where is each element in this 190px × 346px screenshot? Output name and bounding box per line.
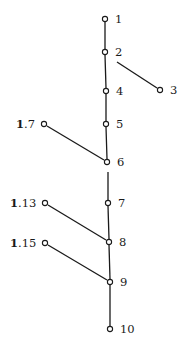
node-8 xyxy=(106,239,111,244)
edge-7-8 xyxy=(108,206,109,239)
node-1.7 xyxy=(41,121,46,126)
edge-8-9 xyxy=(109,245,110,279)
node-2 xyxy=(102,49,107,54)
label-10: 10 xyxy=(120,322,135,336)
node-7 xyxy=(105,200,110,205)
edge-5-6 xyxy=(106,127,107,159)
label-1: 1 xyxy=(115,12,122,26)
label-1.7-rest: .7 xyxy=(24,117,35,131)
node-3 xyxy=(157,87,162,92)
label-9: 9 xyxy=(120,275,127,289)
hasse-diagram: 1 2 3 4 5 6 7 8 9 10 1.7 1.13 1.15 xyxy=(0,0,190,346)
label-1.13-rest: .13 xyxy=(18,196,36,210)
label-1.15: 1.15 xyxy=(10,236,36,250)
edge-2-4 xyxy=(105,55,106,88)
label-1.7-bold: 1 xyxy=(16,117,24,131)
label-1.7: 1.7 xyxy=(16,117,35,131)
label-1.15-rest: .15 xyxy=(18,236,36,250)
edge-1.13-8 xyxy=(48,205,106,240)
label-8: 8 xyxy=(119,235,126,249)
label-1.15-bold: 1 xyxy=(10,236,18,250)
label-7: 7 xyxy=(118,196,125,210)
node-1.13 xyxy=(42,200,47,205)
edge-1.7-6 xyxy=(47,126,104,160)
node-10 xyxy=(107,326,112,331)
label-1.13-bold: 1 xyxy=(10,196,18,210)
node-1.15 xyxy=(42,240,47,245)
node-5 xyxy=(103,121,108,126)
label-3: 3 xyxy=(170,83,177,97)
node-4 xyxy=(103,88,108,93)
node-9 xyxy=(107,279,112,284)
node-6 xyxy=(104,159,109,164)
label-5: 5 xyxy=(116,117,123,131)
label-4: 4 xyxy=(116,84,123,98)
label-2: 2 xyxy=(115,45,122,59)
label-1.13: 1.13 xyxy=(10,196,36,210)
label-6: 6 xyxy=(117,155,124,169)
edge-1.15-9 xyxy=(48,245,107,280)
node-1 xyxy=(102,16,107,21)
